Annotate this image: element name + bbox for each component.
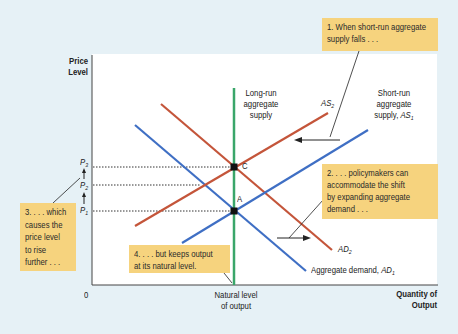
note-2: 2. . . . policymakers can accommodate th… xyxy=(322,164,438,219)
x-axis-label: Quantity of Output xyxy=(389,289,437,311)
lras-label-line2: aggregate xyxy=(240,99,283,110)
note-4-line1: 4. . . . but keeps output xyxy=(134,248,212,260)
p1-label: P1 xyxy=(80,205,88,219)
as2-label: AS2 xyxy=(321,98,334,112)
lras-label-line1: Long-run xyxy=(240,88,283,99)
note-1-line2: supply falls . . . xyxy=(327,33,418,45)
note-4: 4. . . . but keeps output at its natural… xyxy=(129,245,230,273)
note-2-line3: by expanding aggregate xyxy=(327,191,418,203)
origin-label: 0 xyxy=(84,290,88,301)
ad2-label: AD2 xyxy=(338,244,352,258)
point-c-label: C xyxy=(242,161,248,172)
ad2-symbol: AD xyxy=(338,244,349,254)
as2-subscript: 2 xyxy=(331,103,334,109)
ad2-subscript: 2 xyxy=(349,249,352,255)
as1-label-line1: Short-run xyxy=(370,88,418,99)
note-3-line4: to rise xyxy=(25,244,65,257)
note-1: 1. When short-run aggregate supply falls… xyxy=(322,18,438,51)
ad1-label: Aggregate demand, AD1 xyxy=(311,265,395,279)
point-c-marker xyxy=(231,164,238,171)
natural-level-label: Natural level of output xyxy=(208,290,263,312)
p2-label: P2 xyxy=(80,180,88,194)
note-2-line4: demand . . . xyxy=(327,203,418,215)
note-3-line5: further . . . xyxy=(25,256,65,269)
ad1-subscript: 1 xyxy=(392,270,395,276)
point-a-label: A xyxy=(237,194,242,205)
note4-leader xyxy=(224,273,232,283)
note-3-line1: 3. . . . which xyxy=(25,206,65,219)
ad-shift-arrowhead xyxy=(303,235,311,241)
ad1-label-prefix: Aggregate demand, xyxy=(311,265,381,275)
x-label-line1: Quantity of xyxy=(389,289,437,300)
ad1-symbol: AD xyxy=(381,265,392,275)
note1-leader xyxy=(330,48,360,137)
as1-label: Short-run aggregate supply, AS1 xyxy=(370,88,418,124)
natural-level-line2: of output xyxy=(208,301,263,312)
note-2-line2: accommodate the shift xyxy=(327,179,418,191)
note-3-line3: price level xyxy=(25,231,65,244)
as1-subscript: 1 xyxy=(411,115,414,121)
lras-label: Long-run aggregate supply xyxy=(240,88,283,121)
as2-symbol: AS xyxy=(321,98,331,108)
note-3: 3. . . . which causes the price level to… xyxy=(20,203,76,271)
p1-subscript: 1 xyxy=(85,210,88,216)
note3-leader xyxy=(53,178,80,203)
as-shift-arrowhead xyxy=(294,137,302,143)
note-3-line2: causes the xyxy=(25,219,65,232)
note-2-line1: 2. . . . policymakers can xyxy=(327,167,418,179)
x-label-line2: Output xyxy=(389,300,437,311)
as1-label-prefix: supply, xyxy=(374,110,400,120)
note-1-line1: 1. When short-run aggregate xyxy=(327,21,418,33)
as1-label-line2: aggregate xyxy=(370,99,418,110)
p3-subscript: 3 xyxy=(85,162,88,168)
y-label-line1: Price xyxy=(68,56,88,67)
lras-label-line3: supply xyxy=(240,110,283,121)
y-label-line2: Level xyxy=(68,67,88,78)
y-axis-label: Price Level xyxy=(68,56,88,78)
diagram-stage: Price Level Quantity of Output 0 Natural… xyxy=(0,0,458,334)
as1-label-line3: supply, AS1 xyxy=(370,110,418,124)
note-4-line2: at its natural level. xyxy=(134,260,212,272)
point-a-marker xyxy=(231,208,238,215)
natural-level-line1: Natural level xyxy=(208,290,263,301)
p2-subscript: 2 xyxy=(85,185,88,191)
as1-symbol: AS xyxy=(400,110,410,120)
p3-label: P3 xyxy=(80,157,88,171)
